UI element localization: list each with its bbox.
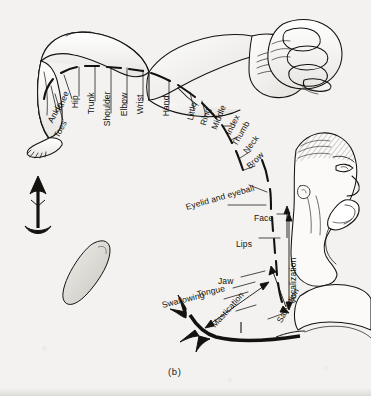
motor-homunculus-figure: Toes Ankle Knee Hip Trunk Shoulder Elbow… (0, 0, 371, 396)
label-hip: Hip (71, 95, 80, 108)
label-trunk: Trunk (87, 92, 96, 114)
label-hand: Hand (162, 96, 171, 117)
homunculus-artwork (0, 0, 371, 396)
label-face: Face (254, 214, 273, 223)
label-lips: Lips (236, 240, 252, 249)
figure-caption: (b) (168, 366, 181, 377)
label-elbow: Elbow (120, 93, 129, 117)
label-wrist: Wrist (136, 95, 145, 115)
label-shoulder: Shoulder (103, 91, 112, 126)
